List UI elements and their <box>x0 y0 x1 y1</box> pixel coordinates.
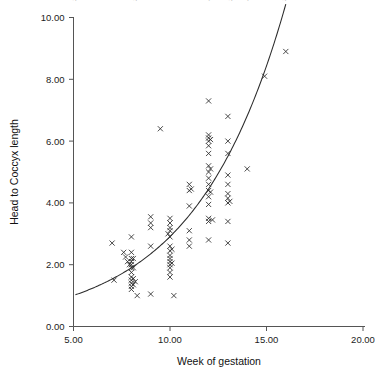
data-point <box>135 293 140 298</box>
data-point <box>206 151 211 156</box>
x-axis-title: Week of gestation <box>177 355 261 367</box>
chart-title: Fig. 4.2 Scatter diagram of head to cocc… <box>0 0 380 1</box>
data-point <box>187 204 192 209</box>
data-point <box>168 265 173 270</box>
data-point <box>168 275 173 280</box>
data-point-group <box>110 49 288 298</box>
data-point <box>187 182 192 187</box>
data-point <box>226 241 231 246</box>
data-point <box>226 139 231 144</box>
data-point <box>189 187 194 192</box>
x-tick-label: 15.00 <box>255 334 279 345</box>
data-point <box>170 261 175 266</box>
data-point <box>226 219 231 224</box>
data-point <box>206 238 211 243</box>
data-point <box>121 250 126 255</box>
data-point <box>226 114 231 119</box>
chart-figure: Fig. 4.2 Scatter diagram of head to cocc… <box>0 0 380 372</box>
y-tick-label: 10.00 <box>41 12 65 23</box>
y-tick-label: 2.00 <box>46 259 65 270</box>
x-tick-label: 20.00 <box>351 334 375 345</box>
fitted-curve <box>75 4 285 295</box>
data-point <box>208 137 213 142</box>
data-point <box>206 99 211 104</box>
data-point <box>284 49 289 54</box>
x-axis-ticks: 5.0010.0015.0020.00 <box>64 327 375 345</box>
y-tick-label: 8.00 <box>46 74 65 85</box>
y-tick-label: 0.00 <box>46 321 65 332</box>
data-point <box>210 218 215 223</box>
data-point <box>158 126 163 131</box>
data-point <box>226 182 231 187</box>
data-point <box>208 190 213 195</box>
x-tick-label: 5.00 <box>64 334 83 345</box>
data-point <box>129 270 134 275</box>
data-point <box>206 176 211 181</box>
data-point <box>172 293 177 298</box>
data-point <box>110 241 115 246</box>
y-tick-label: 4.00 <box>46 197 65 208</box>
data-point <box>226 173 231 178</box>
data-point <box>148 225 153 230</box>
data-point <box>168 216 173 221</box>
data-point <box>226 191 231 196</box>
data-point <box>129 235 134 240</box>
data-point <box>148 292 153 297</box>
scatter-plot: 0.002.004.006.008.0010.00 5.0010.0015.00… <box>0 0 380 372</box>
data-point <box>148 215 153 220</box>
data-point <box>129 287 134 292</box>
y-axis-ticks: 0.002.004.006.008.0010.00 <box>41 12 74 332</box>
data-point <box>148 244 153 249</box>
data-point <box>187 238 192 243</box>
data-point <box>245 167 250 172</box>
data-point <box>206 219 211 224</box>
data-point <box>123 255 128 260</box>
data-point <box>206 143 211 148</box>
data-point <box>206 194 211 199</box>
y-axis-title: Head to Coccyx length <box>8 119 20 225</box>
data-point <box>148 221 153 226</box>
data-point <box>129 250 134 255</box>
data-point <box>168 221 173 226</box>
y-tick-label: 6.00 <box>46 136 65 147</box>
x-tick-label: 10.00 <box>158 334 182 345</box>
data-point <box>187 228 192 233</box>
data-point <box>187 244 192 249</box>
data-point <box>168 270 173 275</box>
data-point <box>206 202 211 207</box>
